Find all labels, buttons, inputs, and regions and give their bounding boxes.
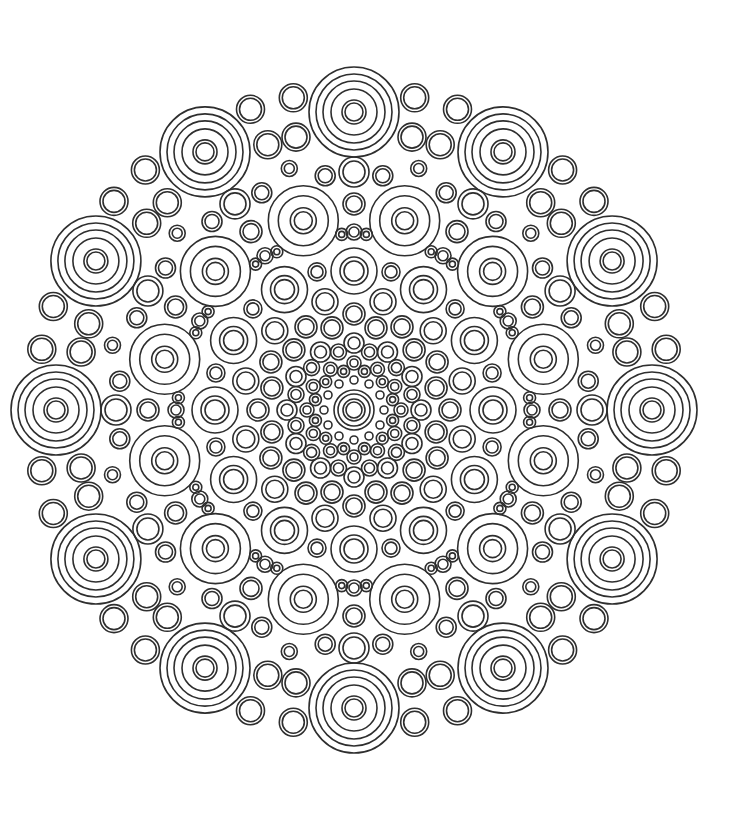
mandala-artwork — [0, 0, 740, 816]
